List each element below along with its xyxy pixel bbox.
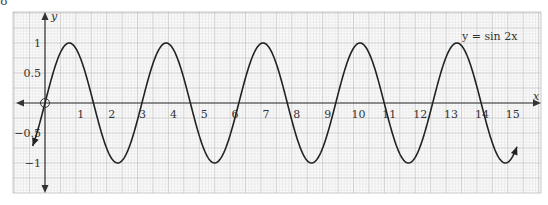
y-tick-label: 0.5 (24, 67, 42, 80)
equation-label: y = sin 2x (461, 30, 518, 43)
y-tick-label: −1 (25, 157, 41, 170)
x-tick-label: 1 (77, 108, 84, 121)
y-tick-label: 1 (34, 37, 41, 50)
x-tick-label: 8 (293, 108, 300, 121)
x-tick-label: 2 (108, 108, 115, 121)
x-tick-label: 12 (413, 108, 427, 121)
x-tick-label: 10 (352, 108, 366, 121)
x-axis-label: x (533, 90, 540, 103)
x-tick-label: 13 (444, 108, 458, 121)
x-tick-label: 4 (170, 108, 177, 121)
x-tick-label: 7 (262, 108, 269, 121)
x-tick-label: 9 (324, 108, 331, 121)
x-tick-label: 11 (382, 108, 396, 121)
y-axis-label: y (50, 10, 58, 23)
sine-chart: 12345678910111213141510.5−0.5−1 x y y = … (0, 0, 548, 205)
x-tick-label: 5 (201, 108, 208, 121)
x-tick-label: 14 (475, 108, 489, 121)
x-tick-label: 15 (506, 108, 520, 121)
